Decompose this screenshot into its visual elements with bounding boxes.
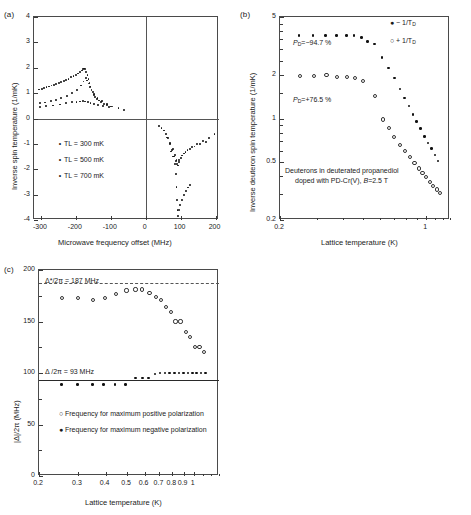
data-point — [181, 199, 183, 201]
axis-tick — [34, 17, 38, 18]
panel-b-annot-neg: PD=−94.7 % — [293, 39, 331, 47]
axis-tick-label: 100 — [168, 223, 192, 230]
data-point — [55, 99, 57, 101]
axis-tick — [280, 24, 283, 25]
axis-tick — [280, 141, 283, 142]
axis-tick — [380, 218, 381, 221]
data-point — [298, 74, 302, 78]
axis-tick — [34, 119, 38, 120]
data-point — [70, 76, 72, 78]
axis-tick-label: 0 — [14, 471, 35, 478]
data-point — [173, 319, 177, 323]
data-point — [415, 120, 418, 123]
data-point — [147, 291, 151, 295]
panel-c-annot-lower: Δ /2π = 93 MHz — [45, 368, 94, 375]
data-point — [173, 156, 175, 158]
data-point — [381, 56, 384, 59]
axis-tick — [34, 42, 38, 43]
data-point — [79, 101, 81, 103]
axis-tick — [172, 472, 173, 476]
panel-b-tag: (b) — [240, 10, 250, 19]
data-point — [80, 85, 82, 87]
axis-tick-label: 50 — [14, 420, 35, 427]
axis-tick — [435, 218, 436, 221]
axis-tick — [450, 218, 451, 221]
panel-a-plot-area — [33, 16, 218, 219]
data-point — [345, 34, 348, 37]
axis-tick — [417, 218, 418, 221]
axis-tick-label: 100 — [14, 368, 35, 375]
data-point — [158, 125, 160, 127]
axis-tick — [39, 270, 43, 271]
axis-tick — [39, 399, 42, 400]
axis-tick — [406, 218, 407, 221]
panel-b-xlabel: Lattice temperature (K) — [321, 238, 398, 247]
axis-tick — [34, 93, 38, 94]
data-point — [187, 187, 189, 189]
data-point — [176, 163, 178, 165]
data-point — [373, 94, 377, 98]
axis-tick — [159, 472, 160, 476]
axis-tick — [34, 220, 38, 221]
axis-tick — [443, 218, 444, 221]
data-point — [71, 101, 73, 103]
axis-tick-label: 200 — [203, 223, 227, 230]
data-point — [169, 310, 173, 314]
data-point — [196, 143, 198, 145]
data-point — [298, 34, 301, 37]
data-point — [60, 296, 64, 300]
data-point — [434, 154, 437, 157]
axis-tick-label: -3 — [13, 190, 30, 197]
panel-c: (c) |Δ|/2π (MHz) Lattice temperature (K)… — [0, 258, 240, 515]
legend-filled-dot-icon: ● — [388, 19, 396, 26]
data-point — [89, 86, 91, 88]
axis-tick — [39, 450, 42, 451]
data-point — [76, 89, 78, 91]
axis-tick — [146, 216, 147, 220]
data-point — [124, 288, 128, 292]
data-point — [52, 105, 54, 107]
data-point — [112, 106, 114, 108]
data-point — [102, 383, 105, 386]
axis-tick — [317, 218, 318, 221]
data-point — [393, 77, 396, 80]
data-point — [124, 383, 127, 386]
data-point — [204, 372, 207, 375]
data-point — [423, 135, 426, 138]
data-point — [420, 171, 424, 175]
data-point — [403, 149, 407, 153]
data-point — [437, 160, 440, 163]
axis-tick — [34, 144, 38, 145]
data-point — [312, 74, 316, 78]
axis-tick — [280, 49, 283, 50]
data-point — [360, 36, 363, 39]
data-point — [387, 67, 390, 70]
legend-open-circle-icon: ○ — [57, 410, 65, 417]
data-point — [403, 97, 406, 100]
axis-tick — [280, 119, 284, 120]
panel-a-ylabel: Inverse spin temperature (1/mK) — [10, 82, 19, 190]
panel-b-ylabel: Inverse deuteron spin temperature (1/mK) — [248, 73, 257, 212]
axis-tick — [34, 68, 38, 69]
data-point — [103, 296, 107, 300]
data-point — [159, 372, 162, 375]
axis-tick — [211, 474, 212, 477]
data-point — [154, 295, 158, 299]
data-point — [202, 140, 204, 142]
data-point — [60, 81, 62, 83]
data-point — [417, 166, 421, 170]
axis-tick — [39, 347, 42, 348]
data-point — [324, 34, 327, 37]
data-point — [183, 194, 185, 196]
data-point — [85, 77, 87, 79]
data-point — [178, 159, 180, 161]
axis-tick-label: 0 — [133, 223, 157, 230]
data-point — [335, 34, 338, 37]
legend-dot-icon: • — [56, 172, 64, 179]
axis-tick-label: -1 — [13, 139, 30, 146]
data-point — [194, 146, 196, 148]
data-point — [93, 103, 95, 105]
data-point — [199, 143, 201, 145]
axis-tick-label: 200 — [14, 265, 35, 272]
axis-tick — [280, 61, 283, 62]
